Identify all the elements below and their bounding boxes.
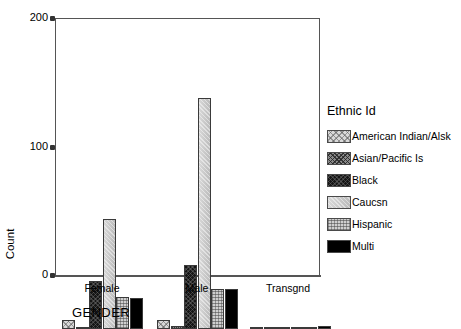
legend-item-label: Black <box>352 175 378 186</box>
x-tick-label-transgnd: Transgnd <box>248 282 328 294</box>
bar-female-american-indian-alsk <box>62 320 75 329</box>
legend-item[interactable]: Black <box>327 173 461 187</box>
x-tick-label-female: Female <box>62 282 142 294</box>
legend-item[interactable]: Hispanic <box>327 217 461 231</box>
legend-swatch-icon <box>327 196 351 209</box>
legend-swatch-icon <box>327 130 351 143</box>
legend-items: American Indian/AlskAsian/Pacific IsBlac… <box>327 129 461 253</box>
bar-chart: ............ 200 100 0 Count Female Male… <box>0 0 461 329</box>
legend-item-label: Caucsn <box>352 197 388 208</box>
legend-item[interactable]: American Indian/Alsk <box>327 129 461 143</box>
bar-male-caucsn <box>198 98 211 329</box>
legend-swatch-icon <box>327 174 351 187</box>
legend-item[interactable]: Asian/Pacific Is <box>327 151 461 165</box>
y-axis-title: Count <box>4 214 16 274</box>
legend-swatch-icon <box>327 240 351 253</box>
bar-male-hispanic <box>211 289 224 329</box>
legend-swatch-icon <box>327 152 351 165</box>
legend-item-label: Multi <box>352 241 374 252</box>
y-tick-label-200: 200 <box>8 12 48 23</box>
legend-item[interactable]: Multi <box>327 239 461 253</box>
bar-male-american-indian-alsk <box>157 320 170 329</box>
bar-female-multi <box>130 298 143 329</box>
bar-male-multi <box>225 289 238 329</box>
legend-item-label: American Indian/Alsk <box>352 131 451 142</box>
x-tick-label-male: Male <box>157 282 237 294</box>
bar-male-black <box>184 265 197 329</box>
y-tick-label-100: 100 <box>8 141 48 152</box>
legend-swatch-icon <box>327 218 351 231</box>
legend-item[interactable]: Caucsn <box>327 195 461 209</box>
legend-item-label: Hispanic <box>352 219 392 230</box>
legend-item-label: Asian/Pacific Is <box>352 153 423 164</box>
chart-title-cutoff: ............ <box>185 0 275 2</box>
legend-title: Ethnic Id <box>327 104 461 118</box>
legend: Ethnic Id American Indian/AlskAsian/Paci… <box>327 104 461 261</box>
x-axis-title: GENDER <box>72 305 130 320</box>
